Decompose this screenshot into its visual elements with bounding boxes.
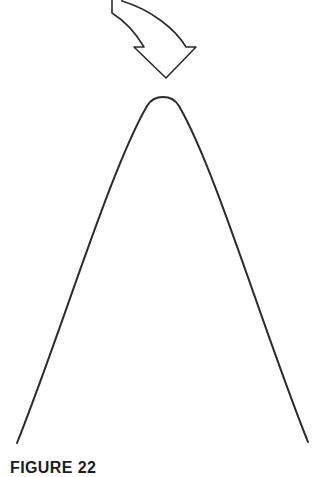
figure-caption: FIGURE 22: [10, 458, 96, 477]
figure-canvas: [0, 0, 322, 477]
figure-page: FIGURE 22: [0, 0, 322, 477]
figure-caption-container: FIGURE 22: [0, 458, 322, 477]
